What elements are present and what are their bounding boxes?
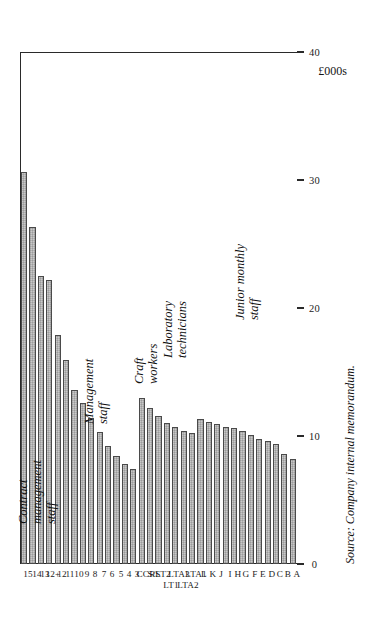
bar (113, 456, 119, 564)
bar (172, 427, 178, 564)
bar (147, 408, 153, 564)
bar (155, 416, 161, 564)
category-tick-label: LTA2 (177, 580, 198, 590)
bar (80, 403, 86, 564)
bar (97, 432, 103, 564)
category-tick-label: 4 (127, 569, 132, 579)
bar (63, 360, 69, 564)
bar (181, 431, 187, 564)
category-tick-label: 10 (74, 569, 84, 579)
value-axis-tick-label: 0 (300, 559, 330, 570)
category-tick-label: D (268, 569, 275, 579)
group-label: Laboratory technicians (161, 301, 189, 358)
category-tick-label: F (252, 569, 257, 579)
bar (189, 433, 195, 564)
category-tick-label: LT1 (163, 580, 178, 590)
bar-chart-figure: £000s 010203040ABCDEFGHIJKLLTA1LTA2LTA3L… (0, 0, 374, 620)
bar (239, 431, 245, 564)
bar (231, 428, 237, 564)
bar (130, 469, 136, 564)
category-tick-label: H (235, 569, 242, 579)
category-tick-label: 14 (32, 569, 42, 579)
category-tick-label: C (277, 569, 283, 579)
value-axis-tick-label: 10 (300, 431, 330, 442)
category-tick-label: 7 (101, 569, 106, 579)
bar (214, 424, 220, 564)
category-tick-label: 9 (85, 569, 90, 579)
category-tick-label: 15 (23, 569, 33, 579)
bar (71, 390, 77, 564)
bar (88, 418, 94, 564)
bar (105, 446, 111, 564)
group-label: Contract management staff (16, 460, 58, 524)
bar (206, 422, 212, 564)
bar (256, 439, 262, 564)
category-tick-label: LTA3 (169, 569, 190, 579)
category-tick-label: 5 (118, 569, 123, 579)
bar (290, 459, 296, 564)
group-label: Junior monthly staff (233, 244, 261, 320)
category-tick-label: B (285, 569, 291, 579)
bar (197, 419, 203, 564)
category-tick-label: K (209, 569, 216, 579)
bar (265, 441, 271, 564)
bar (55, 335, 61, 564)
group-label: Craft workers (132, 344, 160, 384)
category-tick-label: 6 (110, 569, 115, 579)
plot-right-border (20, 52, 297, 53)
value-axis-tick-label: 20 (300, 303, 330, 314)
category-tick-label: J (219, 569, 223, 579)
source-note: Source: Company internal memorandum. (343, 365, 358, 564)
bar (122, 464, 128, 564)
bar (281, 454, 287, 564)
category-tick-label: 8 (93, 569, 98, 579)
bar (139, 398, 145, 564)
rotated-figure-wrapper: £000s 010203040ABCDEFGHIJKLLTA1LTA2LTA3L… (0, 0, 374, 620)
category-tick-label: I (228, 569, 231, 579)
category-tick-label: G (243, 569, 250, 579)
category-tick-label: 3 (135, 569, 140, 579)
value-axis-title: £000s (318, 64, 347, 79)
group-label: Management staff (82, 359, 110, 424)
value-axis-tick-label: 30 (300, 175, 330, 186)
bar (248, 435, 254, 564)
category-tick-label: E (260, 569, 266, 579)
bar (164, 423, 170, 564)
bar (273, 444, 279, 564)
value-axis-tick-label: 40 (300, 47, 330, 58)
category-tick-label: A (293, 569, 300, 579)
bar (223, 427, 229, 564)
